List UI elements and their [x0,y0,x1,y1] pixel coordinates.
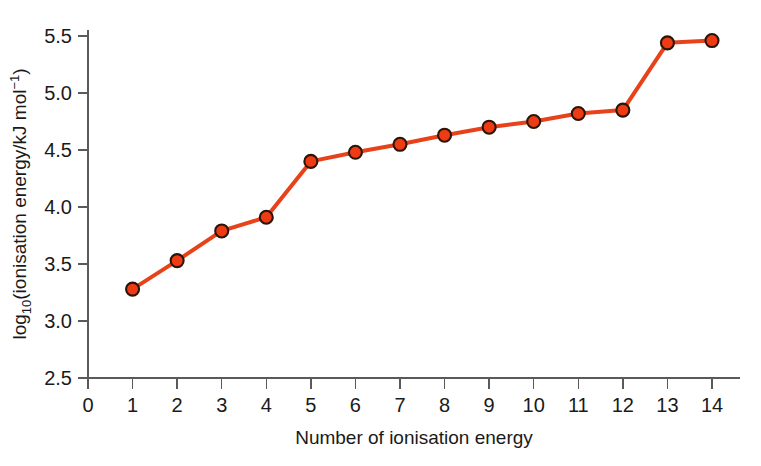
x-axis-tick-labels: 01234567891011121314 [82,394,723,416]
y-axis-ticks [78,36,88,378]
data-point-4 [260,211,273,224]
y-tick-label-5.5: 5.5 [44,25,72,47]
data-point-7 [394,138,407,151]
data-point-11 [572,107,585,120]
data-point-14 [706,34,719,47]
data-point-13 [661,36,674,49]
x-axis-ticks [88,378,712,389]
x-tick-label-5: 5 [305,394,316,416]
data-point-9 [483,121,496,134]
y-tick-label-5.0: 5.0 [44,82,72,104]
y-tick-label-3.0: 3.0 [44,310,72,332]
x-tick-label-1: 1 [127,394,138,416]
x-tick-label-0: 0 [82,394,93,416]
y-axis-tick-labels: 2.53.03.54.04.55.05.5 [44,25,72,389]
x-tick-label-9: 9 [484,394,495,416]
x-tick-label-13: 13 [656,394,678,416]
data-point-10 [527,115,540,128]
x-axis-title: Number of ionisation energy [295,427,533,448]
x-tick-label-2: 2 [172,394,183,416]
y-axis-title: log10(ionisation energy/kJ mol−1) [7,68,34,339]
data-point-12 [616,104,629,117]
data-point-8 [438,129,451,142]
data-point-5 [304,155,317,168]
x-tick-label-11: 11 [568,394,589,416]
chart-canvas: 2.53.03.54.04.55.05.5 012345678910111213… [0,0,761,466]
x-tick-label-7: 7 [394,394,405,416]
x-tick-label-12: 12 [612,394,634,416]
ionisation-energy-chart: 2.53.03.54.04.55.05.5 012345678910111213… [0,0,761,466]
data-point-1 [126,283,139,296]
x-tick-label-8: 8 [439,394,450,416]
data-point-2 [171,254,184,267]
data-point-6 [349,146,362,159]
data-point-3 [215,224,228,237]
data-points-group [126,34,718,296]
x-tick-label-3: 3 [216,394,227,416]
y-tick-label-2.5: 2.5 [44,367,72,389]
data-line-series [133,41,712,290]
x-tick-label-6: 6 [350,394,361,416]
y-tick-label-4.5: 4.5 [44,139,72,161]
x-tick-label-14: 14 [701,394,723,416]
y-tick-label-3.5: 3.5 [44,253,72,275]
x-tick-label-10: 10 [523,394,545,416]
x-tick-label-4: 4 [261,394,272,416]
y-tick-label-4.0: 4.0 [44,196,72,218]
